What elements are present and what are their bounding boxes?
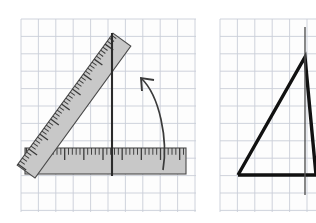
right-panel bbox=[220, 19, 316, 212]
grid-background bbox=[220, 19, 316, 212]
figure-svg bbox=[0, 0, 316, 223]
triangle-result-panel-grid bbox=[220, 19, 316, 212]
figure-container bbox=[0, 0, 316, 223]
left-panel bbox=[17, 19, 196, 212]
